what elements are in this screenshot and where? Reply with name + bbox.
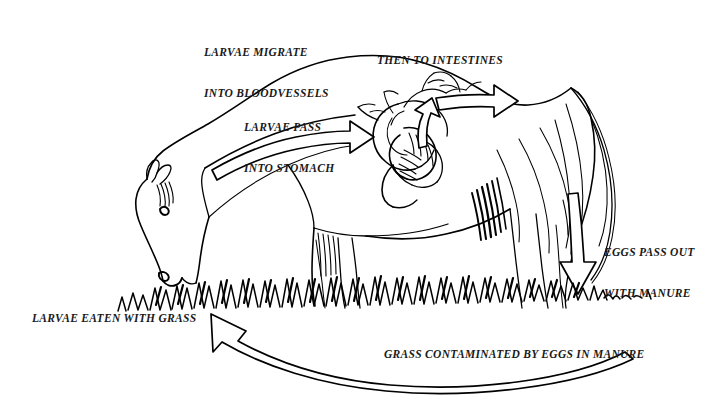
- label-larvae-pass-line1: LARVAE PASS: [244, 121, 334, 135]
- label-larvae-eaten-with-grass: LARVAE EATEN WITH GRASS: [32, 285, 196, 353]
- label-then-to-intestines-line1: THEN TO INTESTINES: [377, 54, 503, 68]
- arrow-migrate-up: [415, 98, 440, 148]
- label-larvae-eaten-line1: LARVAE EATEN WITH GRASS: [32, 312, 196, 326]
- label-larvae-migrate-line1: LARVAE MIGRATE: [204, 46, 329, 60]
- flank-shading: [472, 178, 506, 240]
- parasite-lifecycle-diagram: .ln { fill:none; stroke:#000; stroke-lin…: [0, 0, 728, 418]
- label-larvae-pass-into-stomach: LARVAE PASS INTO STOMACH: [244, 94, 334, 202]
- label-eggs-pass-out-line1: EGGS PASS OUT: [604, 246, 695, 260]
- label-eggs-pass-out-line2: WITH MANURE: [604, 287, 695, 301]
- label-grass-contaminated: GRASS CONTAMINATED BY EGGS IN MANURE: [384, 321, 645, 389]
- label-grass-contaminated-line1: GRASS CONTAMINATED BY EGGS IN MANURE: [384, 348, 645, 362]
- label-eggs-pass-out-with-manure: EGGS PASS OUT WITH MANURE: [604, 219, 695, 327]
- label-larvae-pass-line2: INTO STOMACH: [244, 162, 334, 176]
- intestines-organ: [382, 127, 442, 207]
- label-then-to-intestines: THEN TO INTESTINES: [377, 27, 503, 95]
